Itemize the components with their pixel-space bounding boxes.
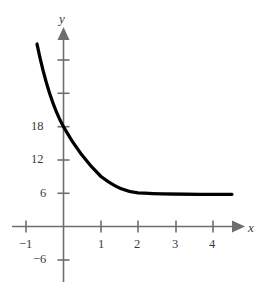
x-tick-label-4: 4 (209, 238, 215, 251)
y-axis-label: y (59, 12, 65, 25)
exponential-decay-figure: x y 18 12 6 −6 −1 1 2 3 4 (0, 0, 268, 293)
y-tick-label-minus-6: −6 (33, 253, 46, 266)
x-tick-label-minus-1: −1 (19, 238, 32, 251)
x-axis-arrowhead (232, 221, 245, 233)
x-axis-label: x (248, 221, 254, 234)
x-tick-label-1: 1 (98, 238, 104, 251)
y-tick-label-18: 18 (31, 120, 44, 133)
y-axis-arrowhead (58, 27, 70, 40)
exponential-decay-curve (37, 44, 232, 194)
y-tick-label-12: 12 (31, 153, 44, 166)
x-tick-label-2: 2 (134, 238, 140, 251)
x-tick-label-3: 3 (172, 238, 178, 251)
y-tick-label-6: 6 (40, 187, 46, 200)
